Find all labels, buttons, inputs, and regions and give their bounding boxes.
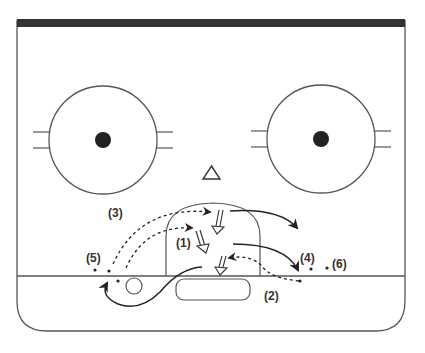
label-3: (3): [108, 206, 123, 220]
shot-arrow-1: [196, 230, 209, 253]
hockey-rink-diagram: (1) (2) (3) (4) (5) (6): [0, 0, 425, 353]
pylon-circle: [126, 278, 142, 294]
shot-arrow-2: [212, 210, 224, 234]
label-4: (4): [300, 251, 315, 265]
faceoff-dot: [95, 132, 111, 148]
label-1: (1): [176, 236, 191, 250]
triangle-icon: [203, 166, 220, 179]
dashed-path-upper: [113, 211, 210, 264]
pass-arrow-upper: [230, 211, 297, 228]
left-faceoff-circle: [33, 86, 173, 194]
label-6: (6): [332, 257, 347, 271]
right-faceoff-circle: [251, 85, 391, 193]
top-bar: [17, 19, 405, 27]
shot-arrow-3: [215, 256, 227, 275]
label-2: (2): [264, 289, 279, 303]
rink-boards: [17, 20, 405, 331]
faceoff-dot: [313, 131, 329, 147]
goal-net: [176, 279, 250, 300]
dashed-path-right: [229, 257, 299, 281]
label-5: (5): [86, 251, 101, 265]
